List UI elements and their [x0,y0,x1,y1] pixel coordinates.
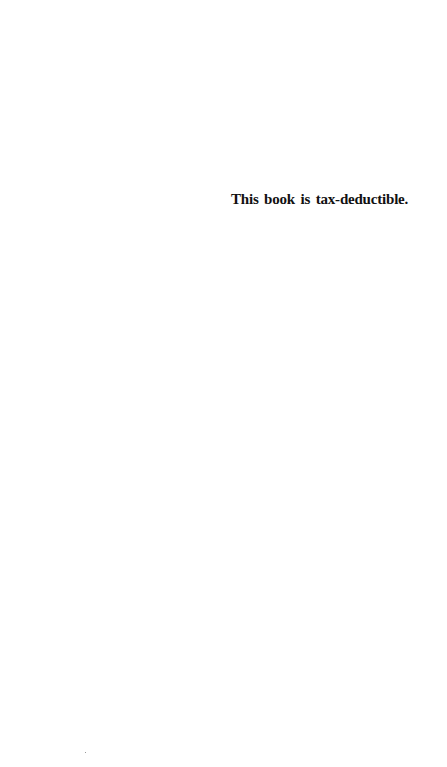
print-speck [85,752,86,753]
document-page: This book is tax-deductible. [0,0,447,767]
tax-deductible-notice: This book is tax-deductible. [231,190,408,208]
